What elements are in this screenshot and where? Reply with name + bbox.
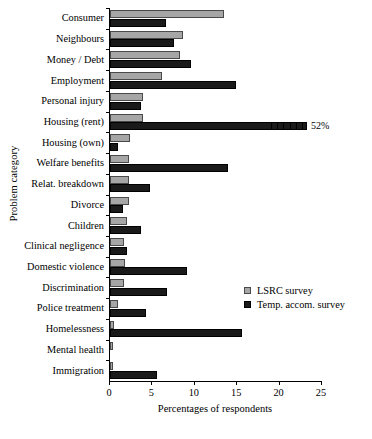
category-tick <box>106 195 110 196</box>
category-tick <box>106 277 110 278</box>
bar-lsrc-survey <box>110 259 125 267</box>
legend-item: LSRC survey <box>244 283 345 297</box>
bar-lsrc-survey <box>110 93 143 101</box>
bar-temp-accom-survey <box>110 39 174 47</box>
chart-legend: LSRC surveyTemp. accom. survey <box>244 283 345 311</box>
bar-group: Immigration <box>110 360 322 381</box>
x-axis-line <box>109 381 321 382</box>
category-tick <box>106 360 110 361</box>
bar-temp-accom-survey <box>110 102 141 110</box>
bar-temp-accom-survey <box>110 371 157 379</box>
category-tick <box>106 174 110 175</box>
bar-temp-accom-survey <box>110 184 150 192</box>
category-label-personal-injury: Personal injury <box>6 96 110 106</box>
bar-lsrc-survey <box>110 31 183 39</box>
bar-group: Homelessness <box>110 319 322 340</box>
category-label-discrimination: Discrimination <box>6 283 110 293</box>
category-tick <box>106 29 110 30</box>
category-tick <box>106 236 110 237</box>
category-tick <box>106 49 110 50</box>
x-axis-tick-label: 25 <box>306 387 336 398</box>
bar-group: Domestic violence <box>110 257 322 278</box>
category-tick <box>106 153 110 154</box>
x-axis-title: Percentages of respondents <box>109 403 321 414</box>
category-tick <box>106 112 110 113</box>
bar-temp-accom-survey <box>110 247 127 255</box>
bar-lsrc-survey <box>110 300 118 308</box>
bar-lsrc-survey <box>110 342 113 350</box>
bar-temp-accom-survey <box>110 288 167 296</box>
bar-lsrc-survey <box>110 238 124 246</box>
black-square-icon <box>244 301 251 308</box>
x-axis-tick-label: 20 <box>264 387 294 398</box>
x-axis-tick <box>236 381 237 385</box>
bar-lsrc-survey <box>110 217 127 225</box>
plot-area: ConsumerNeighboursMoney / DebtEmployment… <box>109 8 322 381</box>
bar-group: Employment <box>110 70 322 91</box>
bar-group: Housing (own) <box>110 132 322 153</box>
legend-item-label: Temp. accom. survey <box>257 299 345 310</box>
bar-temp-accom-survey <box>110 309 146 317</box>
bar-temp-accom-survey <box>110 267 187 275</box>
x-axis-tick-label: 15 <box>221 387 251 398</box>
category-label-clinical-negligence: Clinical negligence <box>6 241 110 251</box>
category-tick <box>106 215 110 216</box>
category-tick <box>106 8 110 9</box>
bar-lsrc-survey <box>110 155 129 163</box>
category-label-children: Children <box>6 221 110 231</box>
x-axis-tick-label: 10 <box>179 387 209 398</box>
category-label-police-treatment: Police treatment <box>6 303 110 313</box>
category-tick <box>106 298 110 299</box>
category-label-housing-own: Housing (own) <box>6 138 110 148</box>
x-axis-tick <box>194 381 195 385</box>
category-tick <box>106 257 110 258</box>
bar-break-segment <box>283 122 290 130</box>
bar-group: Clinical negligence <box>110 236 322 257</box>
bar-temp-accom-survey <box>110 60 191 68</box>
legend-item: Temp. accom. survey <box>244 297 345 311</box>
gray-square-icon <box>244 287 251 294</box>
bar-group: Mental health <box>110 340 322 361</box>
bar-chart: Problem category ConsumerNeighboursMoney… <box>0 0 372 439</box>
bar-group: Housing (rent)52% <box>110 112 322 133</box>
category-tick <box>106 70 110 71</box>
x-axis-tick-label: 0 <box>94 387 124 398</box>
bar-group: Personal injury <box>110 91 322 112</box>
bar-group: Neighbours <box>110 29 322 50</box>
bar-temp-accom-survey <box>110 205 123 213</box>
legend-item-label: LSRC survey <box>257 285 313 296</box>
category-label-relat-breakdown: Relat. breakdown <box>6 179 110 189</box>
bar-temp-accom-survey <box>110 19 166 27</box>
bar-group: Divorce <box>110 195 322 216</box>
category-label-employment: Employment <box>6 76 110 86</box>
category-label-homelessness: Homelessness <box>6 324 110 334</box>
bar-lsrc-survey <box>110 51 180 59</box>
x-axis-tick <box>151 381 152 385</box>
category-label-mental-health: Mental health <box>6 345 110 355</box>
x-axis-tick-label: 5 <box>136 387 166 398</box>
category-label-housing-rent: Housing (rent) <box>6 117 110 127</box>
bar-lsrc-survey <box>110 279 124 287</box>
bar-lsrc-survey <box>110 134 130 142</box>
bar-group: Relat. breakdown <box>110 174 322 195</box>
bar-value-annotation: 52% <box>311 120 329 131</box>
category-tick <box>106 91 110 92</box>
bar-temp-accom-survey <box>110 81 236 89</box>
bar-lsrc-survey <box>110 362 113 370</box>
bar-break-segment <box>296 122 303 130</box>
x-axis-tick <box>279 381 280 385</box>
x-axis-tick <box>109 381 110 385</box>
category-label-domestic-violence: Domestic violence <box>6 262 110 272</box>
category-tick <box>106 132 110 133</box>
x-axis-tick <box>321 381 322 385</box>
bar-group: Money / Debt <box>110 49 322 70</box>
bar-group: Consumer <box>110 8 322 29</box>
bar-lsrc-survey <box>110 176 129 184</box>
bar-temp-accom-survey <box>110 143 118 151</box>
bar-lsrc-survey <box>110 321 114 329</box>
bar-group: Children <box>110 215 322 236</box>
category-label-welfare-benefits: Welfare benefits <box>6 158 110 168</box>
category-label-divorce: Divorce <box>6 200 110 210</box>
bar-temp-accom-survey <box>110 329 242 337</box>
category-label-money-debt: Money / Debt <box>6 55 110 65</box>
